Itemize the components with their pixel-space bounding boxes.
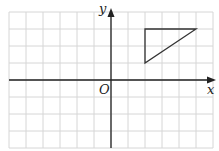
y-axis-label: y: [99, 2, 106, 15]
origin-label: O: [99, 83, 110, 96]
x-axis-label: x: [207, 83, 214, 96]
coordinate-plane: [0, 0, 219, 151]
